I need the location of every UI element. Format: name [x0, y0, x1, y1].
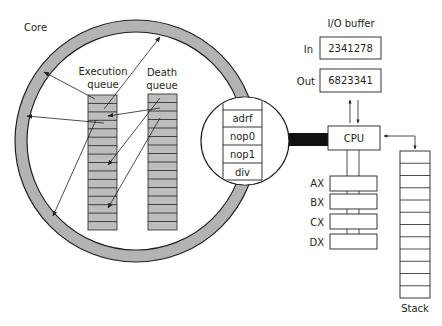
death-queue-label-2: queue [146, 80, 177, 91]
cpu: CPU [328, 126, 380, 150]
instruction-inset: adrf nop0 nop1 div [201, 90, 289, 192]
register-bx [330, 194, 377, 209]
core-architecture-diagram: Core Execution queue Death queue [0, 0, 442, 326]
io-cpu-arrows [350, 100, 358, 123]
io-buffer: I/O buffer In 2341278 Out 6823341 [297, 18, 381, 92]
register-dx-label: DX [309, 237, 324, 248]
register-dx [330, 234, 377, 249]
execution-queue-label-1: Execution [78, 66, 127, 77]
instruction-adrf: adrf [232, 113, 253, 124]
io-in-label: In [304, 44, 313, 55]
io-in-value: 2341278 [328, 43, 373, 54]
data-bus [285, 133, 329, 146]
io-out-value: 6823341 [328, 75, 373, 86]
stack: Stack [400, 151, 430, 314]
death-queue: Death queue [146, 67, 177, 230]
register-cx-label: CX [310, 217, 324, 228]
instruction-nop1: nop1 [230, 149, 255, 160]
register-ax-label: AX [310, 178, 324, 189]
instruction-nop0: nop0 [230, 131, 255, 142]
execution-queue: Execution queue [78, 66, 127, 230]
io-buffer-title: I/O buffer [327, 18, 375, 29]
register-ax [330, 176, 377, 191]
stack-label: Stack [401, 303, 429, 314]
io-out-label: Out [297, 76, 315, 87]
core-label: Core [24, 22, 47, 33]
register-cx [330, 214, 377, 229]
death-queue-label-1: Death [147, 67, 177, 78]
register-bx-label: BX [310, 197, 324, 208]
registers: AX BX CX DX [309, 176, 377, 249]
cpu-stack-arrow [384, 136, 415, 149]
instruction-div: div [235, 167, 250, 178]
execution-queue-label-2: queue [87, 79, 118, 90]
cpu-label: CPU [344, 133, 364, 144]
